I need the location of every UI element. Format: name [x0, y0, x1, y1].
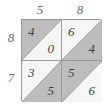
cell-lower-digit: 5 — [48, 84, 55, 97]
cell-upper-digit: 3 — [28, 66, 35, 79]
lattice-cell-bottom-left: 3 5 — [22, 61, 62, 102]
cell-lower-digit: 4 — [89, 42, 96, 55]
cell-upper-digit: 4 — [28, 25, 35, 38]
lattice-grid: 4 0 6 4 3 5 5 — [21, 19, 101, 101]
lattice-cell-top-left: 4 0 — [22, 20, 62, 61]
cell-upper-digit: 6 — [68, 25, 75, 38]
cell-lower-digit: 6 — [89, 84, 96, 97]
column-label-0: 5 — [33, 3, 47, 17]
column-label-1: 8 — [73, 3, 87, 17]
lattice-multiplication-figure: 5 8 8 7 4 0 6 4 3 — [0, 0, 106, 107]
cell-lower-digit: 0 — [48, 42, 55, 55]
lattice-cell-top-right: 6 4 — [62, 20, 102, 61]
lattice-cell-bottom-right: 5 6 — [62, 61, 102, 102]
row-label-1: 7 — [4, 71, 18, 85]
cell-upper-digit: 5 — [68, 66, 75, 79]
row-label-0: 8 — [4, 31, 18, 45]
